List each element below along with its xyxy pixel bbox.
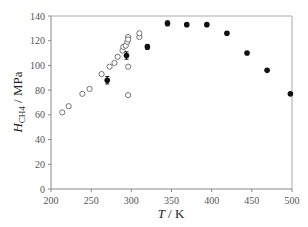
filled-data-point	[124, 53, 130, 59]
y-tick-label: 60	[35, 109, 45, 120]
x-tick-label: 500	[285, 195, 300, 206]
filled-data-point	[204, 22, 210, 28]
y-tick-label: 140	[30, 11, 45, 22]
open-data-point	[60, 110, 65, 115]
filled-data-point	[104, 77, 110, 83]
y-tick-label: 40	[35, 134, 45, 145]
open-data-point	[80, 91, 85, 96]
data-points	[60, 21, 294, 115]
x-tick-label: 250	[84, 195, 99, 206]
open-data-point	[107, 64, 112, 69]
filled-data-point	[224, 31, 230, 37]
x-tick-label: 400	[204, 195, 219, 206]
open-data-point	[112, 60, 117, 65]
open-data-point	[126, 92, 131, 97]
open-data-point	[137, 31, 142, 36]
open-data-point	[66, 104, 71, 109]
x-tick-label: 350	[164, 195, 179, 206]
x-ticks: 200250300350400450500	[44, 189, 300, 206]
y-axis-label: HCH4 / MPa	[10, 71, 27, 133]
filled-data-point	[244, 50, 250, 56]
filled-data-point	[288, 91, 294, 97]
open-data-point	[87, 86, 92, 91]
x-tick-label: 450	[244, 195, 259, 206]
y-ticks: 020406080100120140	[30, 11, 51, 195]
open-data-point	[115, 54, 120, 59]
scatter-chart: 020406080100120140 200250300350400450500…	[0, 0, 308, 227]
x-axis-label: T / K	[158, 206, 185, 221]
filled-data-point	[184, 22, 190, 28]
x-tick-label: 200	[44, 195, 59, 206]
y-tick-label: 80	[35, 85, 45, 96]
filled-data-point	[165, 21, 171, 27]
plot-frame	[51, 16, 292, 189]
open-data-point	[126, 37, 131, 42]
x-tick-label: 300	[124, 195, 139, 206]
filled-data-point	[145, 44, 151, 50]
y-tick-label: 0	[40, 184, 45, 195]
open-data-point	[99, 71, 104, 76]
open-data-point	[126, 64, 131, 69]
y-tick-label: 120	[30, 35, 45, 46]
y-tick-label: 20	[35, 159, 45, 170]
y-tick-label: 100	[30, 60, 45, 71]
filled-data-point	[264, 68, 270, 74]
